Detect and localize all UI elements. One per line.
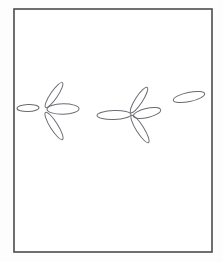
drawing-canvas: Ellipse cluster line drawing Three group… xyxy=(0,0,223,262)
page-border xyxy=(14,9,212,252)
ellipse-figure: Ellipse cluster line drawing Three group… xyxy=(0,0,223,262)
